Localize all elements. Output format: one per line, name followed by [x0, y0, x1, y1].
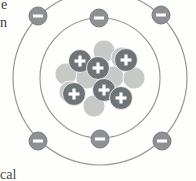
- textbook-page-crop: e n cal: [0, 0, 196, 181]
- cutoff-text-fragment: e: [1, 0, 7, 12]
- cutoff-text-fragment: cal: [0, 168, 16, 181]
- atom-diagram: [0, 0, 196, 181]
- cutoff-text-fragment: n: [0, 16, 7, 30]
